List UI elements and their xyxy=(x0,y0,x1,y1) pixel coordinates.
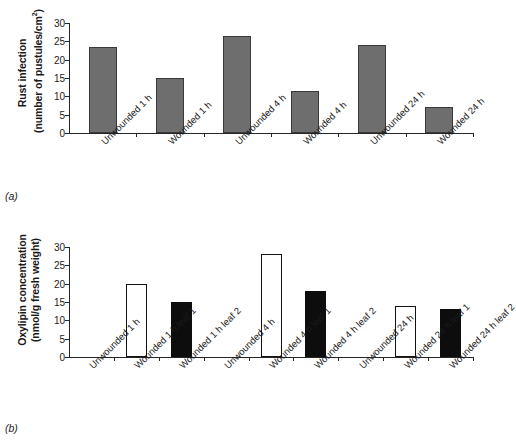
panel-a-rust-infection: Rust infection (number of pustules/cm2) … xyxy=(0,0,507,218)
x-axis-label-unwounded-4-h: Unwounded 4 h xyxy=(233,92,288,147)
panel-b-tag: (b) xyxy=(5,422,18,434)
panel-a-x-axis-labels: Unwounded 1 hWounded 1 hUnwounded 4 hWou… xyxy=(0,0,507,218)
x-axis-label-wounded-4-h: Wounded 4 h xyxy=(301,99,349,147)
x-axis-label-unwounded-24-h: Unwounded 24 h xyxy=(368,88,427,147)
panel-b-x-axis-labels: Unwounded 1 hWounded 1 h leaf 1Wounded 1… xyxy=(0,222,507,448)
x-axis-label-wounded-24-h: Wounded 24 h xyxy=(435,95,486,146)
panel-b-oxylipin-concentration: Oxylipin concentration (nmol/g fresh wei… xyxy=(0,222,507,448)
x-axis-label-wounded-1-h: Wounded 1 h xyxy=(166,99,214,147)
x-axis-label-unwounded-1-h: Unwounded 1 h xyxy=(99,92,154,147)
panel-a-tag: (a) xyxy=(5,190,18,202)
